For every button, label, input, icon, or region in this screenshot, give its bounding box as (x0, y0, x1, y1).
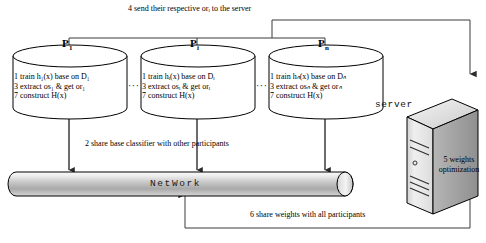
participant-label-1-text: P (62, 37, 69, 49)
caption-share-weights: 6 share weights with all participants (250, 210, 365, 219)
participant-step-2-2: 3 extract osᵢ & get orᵢ (142, 82, 215, 92)
participant-step-1-3: 7 construct H(x) (14, 91, 90, 101)
participant-label-3-text: P (318, 37, 325, 49)
diagram-vector-layer (0, 0, 486, 243)
participant-step-1-2: 3 extract os₁ & get or₁ (14, 82, 90, 92)
participant-step-3-2: 3 extract osₙ & get orₙ (270, 82, 346, 92)
participant-steps-1: 1 train h₁(x) base on D₁ 3 extract os₁ &… (14, 72, 90, 101)
server-task: 5 weights optimization (434, 155, 484, 175)
participant-label-2: Pi (190, 37, 199, 52)
server-task-line-1: 5 weights (434, 155, 484, 165)
participant-step-1-1: 1 train h₁(x) base on D₁ (14, 72, 90, 82)
caption-send-or-to-server: 4 send their respective orᵢ to the serve… (128, 4, 251, 13)
participant-step-2-1: 1 train hᵢ(x) base on Dᵢ (142, 72, 215, 82)
ellipsis-separator-2: ··· (256, 80, 268, 91)
participant-steps-3: 1 train hₙ(x) base on Dₙ 3 extract osₙ &… (270, 72, 346, 101)
participant-label-1-sub: 1 (69, 44, 73, 52)
participant-step-3-1: 1 train hₙ(x) base on Dₙ (270, 72, 346, 82)
participant-label-2-sub: i (197, 44, 199, 52)
participant-step-3-3: 7 construct H(x) (270, 91, 346, 101)
server-task-line-2: optimization (434, 165, 484, 175)
server-label: server (375, 99, 413, 110)
participant-step-2-3: 7 construct H(x) (142, 91, 215, 101)
ellipsis-separator-1: ··· (128, 80, 140, 91)
network-bar-label: NetWork (150, 178, 201, 189)
participant-label-1: P1 (62, 37, 73, 52)
participant-label-3-sub: n (325, 44, 329, 52)
caption-share-base-classifier: 2 share base classifier with other parti… (85, 139, 229, 148)
participant-label-3: Pn (318, 37, 329, 52)
diagram-canvas: 4 send their respective orᵢ to the serve… (0, 0, 486, 243)
participant-steps-2: 1 train hᵢ(x) base on Dᵢ 3 extract osᵢ &… (142, 72, 215, 101)
participant-label-2-text: P (190, 37, 197, 49)
